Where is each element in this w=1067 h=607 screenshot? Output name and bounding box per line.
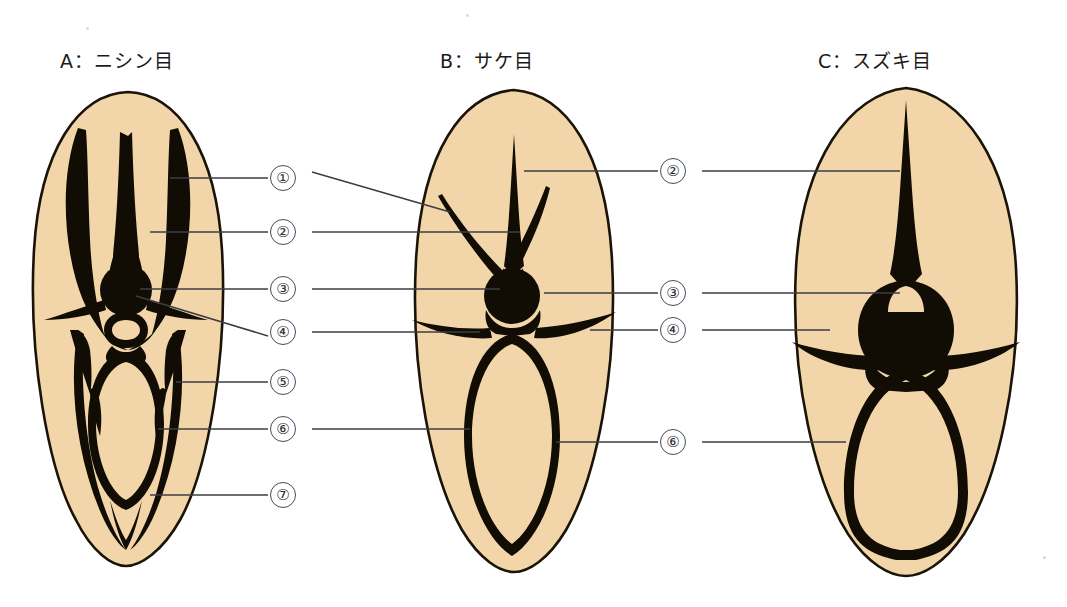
callout-right-4[interactable]: ④	[660, 317, 686, 343]
callout-right-6[interactable]: ⑥	[660, 429, 686, 455]
callout-left-5[interactable]: ⑤	[270, 369, 296, 395]
callout-right-3[interactable]: ③	[660, 280, 686, 306]
callout-left-3[interactable]: ③	[270, 276, 296, 302]
otolith-c	[792, 88, 1020, 576]
callout-left-1[interactable]: ①	[270, 165, 296, 191]
callout-left-2[interactable]: ②	[270, 219, 296, 245]
callout-left-6[interactable]: ⑥	[270, 416, 296, 442]
otolith-a-nucleus	[100, 264, 152, 316]
callout-left-4[interactable]: ④	[270, 319, 296, 345]
callout-right-2[interactable]: ②	[660, 158, 686, 184]
otolith-artwork	[0, 0, 1067, 607]
callout-left-7[interactable]: ⑦	[270, 482, 296, 508]
otolith-b	[412, 90, 616, 572]
otolith-figure: A：ニシン目 B：サケ目 C：スズキ目	[0, 0, 1067, 607]
otolith-b-nucleus	[484, 268, 540, 324]
